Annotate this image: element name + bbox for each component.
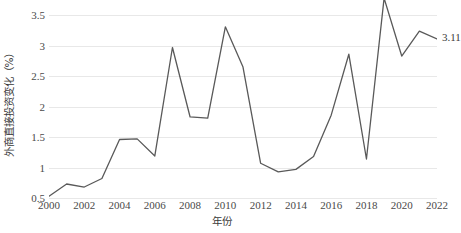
x-tick-label-2018: 2018 [355,199,377,211]
y-tick-label-3.5: 3.5 [31,9,45,21]
y-tick-label-1.5: 1.5 [31,131,45,143]
x-tick-label-2020: 2020 [391,199,413,211]
x-tick-label-2004: 2004 [109,199,131,211]
data-label-3-11: 3.11 [442,31,461,43]
y-tick-label-2: 2 [40,101,46,113]
plot-area [49,0,437,198]
x-tick-label-2010: 2010 [214,199,236,211]
series-line-fdi-change [49,0,437,198]
y-axis-tick-labels: 0.511.522.533.5 [18,0,48,205]
y-tick-label-2.5: 2.5 [31,70,45,82]
x-tick-label-2008: 2008 [179,199,201,211]
x-tick-label-2014: 2014 [285,199,307,211]
x-tick-label-2016: 2016 [320,199,342,211]
y-axis-title: 外商直接投资变化（%） [0,0,18,205]
y-axis-title-text: 外商直接投资变化（%） [2,48,17,158]
y-tick-label-1: 1 [40,162,46,174]
x-axis-title: 年份 [0,213,443,228]
x-tick-label-2002: 2002 [73,199,95,211]
x-tick-label-2022: 2022 [426,199,448,211]
series-polyline [49,0,437,196]
y-tick-label-3: 3 [40,40,46,52]
x-tick-label-2000: 2000 [38,199,60,211]
x-tick-label-2012: 2012 [250,199,272,211]
x-tick-label-2006: 2006 [144,199,166,211]
